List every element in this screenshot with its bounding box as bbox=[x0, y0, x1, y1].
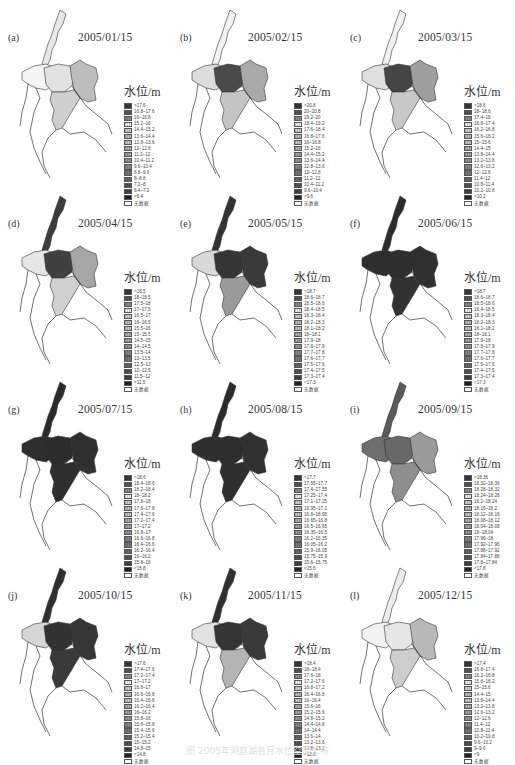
river-line bbox=[20, 456, 28, 498]
legend-swatch bbox=[464, 542, 472, 547]
legend-range: 15.6–16 bbox=[304, 704, 321, 710]
legend-range: 17.6–18.4 bbox=[304, 127, 324, 133]
legend-range: 12–12.8 bbox=[304, 170, 321, 176]
legend-swatch bbox=[464, 140, 472, 145]
legend-title: 水位/m bbox=[124, 82, 161, 100]
legend-range: 13.6–14.4 bbox=[134, 134, 154, 140]
map-panel: (g)2005/07/15水位/m>18.618.4–18.618.2–18.4… bbox=[0, 374, 170, 559]
legend-swatch bbox=[294, 716, 302, 721]
legend-range: 11.2–12 bbox=[134, 152, 150, 158]
legend-title: 水位/m bbox=[124, 640, 161, 658]
lake-map bbox=[340, 188, 470, 373]
legend-swatch bbox=[464, 536, 472, 541]
legend-range: 18.2–18.4 bbox=[134, 487, 154, 493]
legend-range: 16.2–16.8 bbox=[474, 673, 494, 679]
legend-swatch bbox=[294, 549, 302, 554]
legend-range: 18.5–18.6 bbox=[304, 301, 324, 307]
legend-swatch bbox=[464, 338, 472, 343]
legend-range: 14.4–14.8 bbox=[304, 722, 324, 728]
legend-range: 14–14.5 bbox=[134, 344, 151, 350]
panel-label: (f) bbox=[350, 218, 360, 229]
legend-swatch bbox=[124, 506, 132, 511]
legend-range: 15.9–16.05 bbox=[304, 548, 327, 554]
panel-date: 2005/10/15 bbox=[78, 589, 132, 601]
legend-range: 18.04–18.08 bbox=[474, 524, 500, 530]
legend-title: 水位/m bbox=[124, 454, 161, 472]
panel-date: 2005/09/15 bbox=[418, 403, 472, 415]
legend-range: 16.2–16.35 bbox=[304, 536, 327, 542]
legend-range: 17.8–17.9 bbox=[474, 344, 494, 350]
lake-map bbox=[0, 560, 130, 745]
legend-swatch bbox=[124, 661, 132, 666]
legend-swatch bbox=[124, 542, 132, 547]
central-lake-region bbox=[384, 250, 414, 278]
legend-range: 15.6–16.2 bbox=[474, 134, 494, 140]
legend-range: 17.7–17.8 bbox=[474, 350, 494, 356]
legend-swatch bbox=[124, 308, 132, 313]
legend-swatch bbox=[464, 302, 472, 307]
legend-title: 水位/m bbox=[294, 268, 331, 286]
panel-date: 2005/07/15 bbox=[78, 403, 132, 415]
legend-swatch bbox=[124, 698, 132, 703]
legend-swatch bbox=[464, 289, 472, 294]
legend-range: 14.4–15 bbox=[474, 692, 491, 698]
legend-swatch bbox=[124, 152, 132, 157]
central-lake-region bbox=[214, 250, 244, 278]
legend-swatch bbox=[124, 363, 132, 368]
legend-swatch bbox=[124, 296, 132, 301]
legend-range: 17–17.2 bbox=[134, 679, 151, 685]
legend-title: 水位/m bbox=[464, 454, 501, 472]
north-channel-region bbox=[42, 382, 66, 438]
legend-swatch bbox=[294, 735, 302, 740]
central-lake-region bbox=[44, 622, 74, 650]
legend-swatch bbox=[464, 314, 472, 319]
panel-label: (d) bbox=[8, 218, 20, 229]
legend-swatch bbox=[294, 542, 302, 547]
legend-swatch bbox=[124, 332, 132, 337]
legend-swatch bbox=[294, 536, 302, 541]
legend-swatch bbox=[294, 668, 302, 673]
legend-range: 20–20.8 bbox=[304, 109, 321, 115]
legend-swatch bbox=[124, 500, 132, 505]
legend-range: 16.5–17 bbox=[134, 313, 151, 319]
legend-swatch bbox=[464, 128, 472, 133]
legend-swatch bbox=[124, 164, 132, 169]
legend-range: 17.96–18 bbox=[474, 536, 493, 542]
legend-swatch bbox=[294, 356, 302, 361]
river-line bbox=[360, 270, 368, 312]
legend-range: 18–18.04 bbox=[474, 530, 493, 536]
legend-range: 15.6–15.8 bbox=[134, 722, 154, 728]
river-line bbox=[20, 642, 28, 684]
legend-swatch bbox=[124, 735, 132, 740]
legend-range: 15–15.6 bbox=[474, 685, 491, 691]
legend-item-no-data: 无数据 bbox=[294, 759, 331, 765]
legend-range: 18.4–18.5 bbox=[304, 307, 324, 313]
legend-range: 17.1–17.25 bbox=[304, 499, 327, 505]
legend-swatch bbox=[464, 698, 472, 703]
legend-swatch bbox=[294, 326, 302, 331]
north-channel-region bbox=[212, 382, 236, 438]
legend-swatch bbox=[464, 134, 472, 139]
legend-swatch bbox=[464, 728, 472, 733]
river-line bbox=[62, 314, 106, 338]
legend-swatch bbox=[294, 158, 302, 163]
river-line bbox=[360, 84, 368, 126]
legend-swatch bbox=[464, 110, 472, 115]
legend-range: 17.2–17.4 bbox=[134, 518, 154, 524]
legend-range: 18.6–18.7 bbox=[474, 295, 494, 301]
central-lake-region bbox=[214, 436, 244, 464]
south-lake-region bbox=[50, 648, 80, 688]
legend-swatch bbox=[294, 475, 302, 480]
legend-swatch bbox=[294, 170, 302, 175]
river-line bbox=[402, 314, 446, 338]
legend-range: 12.6–13.2 bbox=[474, 710, 494, 716]
legend-range: 8–8.8 bbox=[134, 176, 146, 182]
legend-title: 水位/m bbox=[464, 268, 501, 286]
legend-swatch bbox=[464, 488, 472, 493]
legend-swatch bbox=[124, 320, 132, 325]
panel-date: 2005/04/15 bbox=[78, 217, 132, 229]
legend-range: 12.6–13.2 bbox=[474, 164, 494, 170]
river-line bbox=[360, 642, 368, 684]
legend-range: 16.8–17.6 bbox=[304, 134, 324, 140]
legend-range: 18.24–18.28 bbox=[474, 493, 500, 499]
